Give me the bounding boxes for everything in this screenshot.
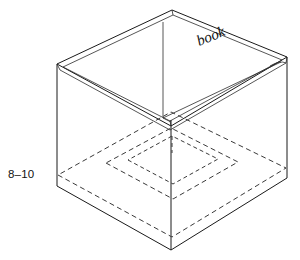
dimension-label: 8–10 <box>8 168 34 180</box>
figure-container: 8–10 book <box>0 0 300 260</box>
box-illustration: 8–10 book <box>0 0 300 260</box>
